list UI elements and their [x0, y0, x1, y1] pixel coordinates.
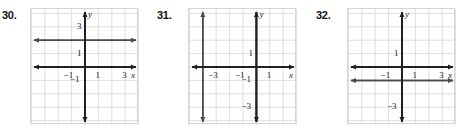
x-axis-label: x: [448, 71, 452, 80]
x-tick-label: −1: [381, 71, 391, 80]
y-axis-label: y: [259, 10, 263, 19]
y-tick-label: −3: [387, 102, 397, 111]
x-axis-label: x: [131, 71, 135, 80]
problem-number-31: 31.: [157, 9, 171, 21]
y-tick-label: 1: [77, 49, 82, 58]
y-tick-label: 3: [77, 22, 82, 31]
y-tick-label: −3: [241, 102, 251, 111]
x-tick-label: 3: [122, 71, 127, 80]
x-tick-label: −3: [208, 71, 218, 80]
y-tick-label: −1: [70, 75, 80, 84]
coordinate-grid-31: −3−111−1−3xy: [188, 8, 296, 124]
problem-number-32: 32.: [316, 9, 330, 21]
coordinate-grid-32: −1131−3xy: [347, 8, 455, 124]
y-tick-label: −1: [241, 75, 251, 84]
x-tick-label: 1: [267, 71, 272, 80]
y-axis-label: y: [405, 10, 409, 19]
worksheet-page: 30. −11331−1xy 31. −3−111−1−3xy 32. −113…: [0, 0, 475, 131]
grid-canvas-32: [348, 9, 456, 125]
problem-30: 30. −11331−1xy: [0, 0, 155, 131]
coordinate-grid-30: −11331−1xy: [30, 8, 138, 124]
problem-number-30: 30.: [2, 9, 16, 21]
y-tick-label: 1: [394, 49, 399, 58]
problem-31: 31. −3−111−1−3xy: [155, 0, 312, 131]
y-axis-label: y: [88, 10, 92, 19]
x-tick-label: 3: [439, 71, 444, 80]
x-tick-label: 1: [412, 71, 417, 80]
problem-32: 32. −1131−3xy: [312, 0, 475, 131]
x-tick-label: 1: [95, 71, 100, 80]
y-tick-label: 1: [248, 49, 253, 58]
x-axis-label: x: [289, 71, 293, 80]
grid-canvas-30: [31, 9, 139, 125]
